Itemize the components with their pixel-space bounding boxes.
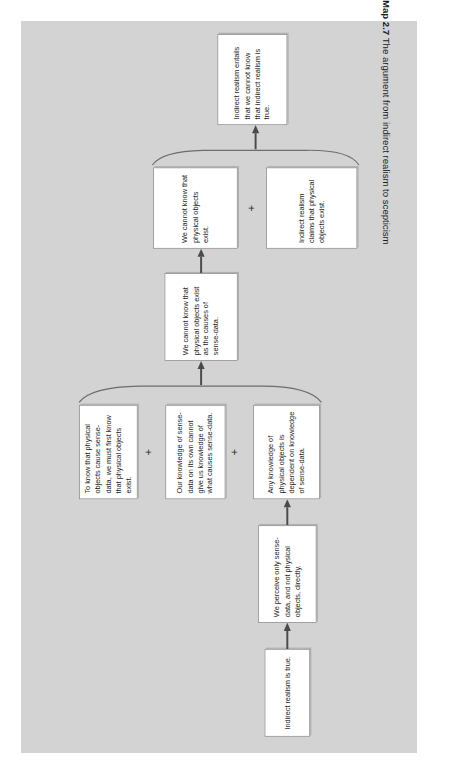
node-label-n8: Indirect realism claims that physical ob… [297, 173, 327, 243]
node-label-n5: To know that physical objects cause sens… [83, 411, 133, 494]
conjunction-plus-c1: + [228, 444, 239, 460]
arrow-group-to-n9 [252, 125, 260, 149]
arrow-n6-to-n7 [197, 249, 205, 273]
node-box-n7[interactable]: We cannot know that physical objects exi… [153, 167, 238, 248]
node-label-n1: Indirect realism is true. [282, 656, 292, 729]
arrow-group-to-n6 [197, 361, 205, 385]
figure-page: Indirect realism is true. We perceive on… [0, 0, 458, 773]
node-label-n6: We cannot know that physical objects exi… [181, 279, 221, 355]
node-label-n4: Our knowledge of sense-data on its own c… [175, 411, 215, 494]
node-box-n1[interactable]: Indirect realism is true. [265, 649, 311, 737]
node-label-n7: We cannot know that physical objects exi… [180, 173, 210, 243]
diagram-stage-wrapper: Indirect realism is true. We perceive on… [21, 21, 417, 753]
conjunction-plus-c2: + [143, 444, 154, 460]
node-label-n9: Indirect realism entails that we cannot … [232, 40, 272, 120]
node-box-n9[interactable]: Indirect realism entails that we cannot … [217, 34, 287, 125]
node-box-n2[interactable]: We perceive only sense-data, and not phy… [258, 525, 317, 623]
node-box-n4[interactable]: Our knowledge of sense-data on its own c… [165, 405, 225, 499]
node-box-n3[interactable]: Any knowledge of physical objects is dep… [253, 405, 320, 499]
conjunction-plus-c3: + [245, 200, 256, 216]
node-box-n5[interactable]: To know that physical objects cause sens… [79, 405, 138, 499]
node-box-n6[interactable]: We cannot know that physical objects exi… [165, 273, 238, 361]
node-label-n2: We perceive only sense-data, and not phy… [272, 531, 302, 617]
arrow-n1-to-n2 [283, 623, 291, 649]
figure-caption: Map 2.7 The argument from indirect reali… [373, 0, 399, 732]
figure-caption-label: Map 2.7 [381, 0, 392, 35]
node-box-n8[interactable]: Indirect realism claims that physical ob… [266, 167, 357, 248]
arrow-n2-to-n3 [283, 499, 291, 525]
argument-map-diagram: Indirect realism is true. We perceive on… [58, 21, 380, 753]
figure-caption-text: The argument from indirect realism to sc… [381, 38, 392, 245]
node-label-n3: Any knowledge of physical objects is dep… [266, 411, 306, 494]
